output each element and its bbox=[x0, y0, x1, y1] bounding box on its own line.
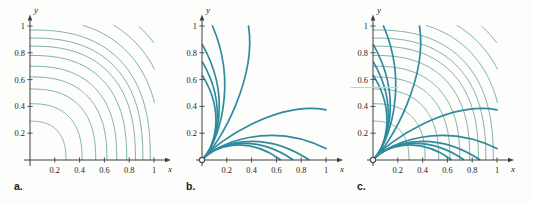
level-curve bbox=[139, 27, 154, 43]
print-artifact-line bbox=[351, 87, 398, 88]
level-curve bbox=[30, 104, 82, 160]
x-axis-letter: x bbox=[510, 164, 515, 174]
x-tick-label: 0.8 bbox=[467, 166, 477, 175]
x-tick-label: 0.2 bbox=[222, 166, 232, 175]
y-axis-arrow-icon bbox=[28, 15, 33, 21]
x-tick-label: 1 bbox=[152, 166, 156, 175]
y-tick-label: 0.8 bbox=[358, 49, 368, 58]
x-tick-label: 0.8 bbox=[296, 166, 306, 175]
level-curve bbox=[457, 26, 497, 70]
x-tick-label: 0.8 bbox=[124, 166, 134, 175]
origin-marker-icon bbox=[370, 157, 375, 162]
x-tick-label: 0.6 bbox=[271, 166, 281, 175]
level-curve bbox=[30, 66, 117, 160]
x-tick-label: 0.4 bbox=[417, 166, 428, 175]
plot-c-canvas: 0.20.20.40.40.60.60.80.811xy bbox=[343, 0, 521, 203]
y-tick-label: 0.2 bbox=[358, 129, 368, 138]
x-axis-arrow-icon bbox=[508, 158, 514, 163]
y-axis-arrow-icon bbox=[371, 15, 376, 21]
level-curve bbox=[426, 26, 497, 103]
origin-marker-icon bbox=[199, 157, 204, 162]
y-tick-label: 0.6 bbox=[358, 76, 368, 85]
plot-a-canvas: 0.20.20.40.40.60.60.80.811xy bbox=[0, 0, 178, 203]
y-axis-letter: y bbox=[205, 5, 210, 15]
y-tick-label: 1 bbox=[21, 22, 25, 31]
level-curve bbox=[482, 27, 497, 43]
y-axis-letter: y bbox=[376, 5, 381, 15]
panel-c-label: c. bbox=[357, 181, 366, 192]
y-tick-label: 0.6 bbox=[15, 76, 25, 85]
level-curve bbox=[30, 30, 150, 160]
panel-c: 0.20.20.40.40.60.60.80.811xy c. bbox=[343, 0, 521, 203]
panel-b-label: b. bbox=[186, 181, 195, 192]
panel-b: 0.20.20.40.40.60.60.80.811xy b. bbox=[172, 0, 350, 203]
y-tick-label: 0.8 bbox=[15, 49, 25, 58]
plot-b-canvas: 0.20.20.40.40.60.60.80.811xy bbox=[172, 0, 350, 203]
y-tick-label: 0.4 bbox=[358, 102, 369, 111]
y-tick-label: 0.6 bbox=[187, 76, 197, 85]
x-tick-label: 0.4 bbox=[246, 166, 257, 175]
y-tick-label: 1 bbox=[364, 22, 368, 31]
x-tick-label: 0.4 bbox=[74, 166, 85, 175]
y-axis-arrow-icon bbox=[200, 15, 205, 21]
x-axis-arrow-icon bbox=[165, 158, 171, 163]
y-tick-label: 0.2 bbox=[187, 129, 197, 138]
y-tick-label: 1 bbox=[193, 22, 197, 31]
y-axis-letter: y bbox=[33, 5, 38, 15]
x-tick-label: 1 bbox=[495, 166, 499, 175]
level-curve bbox=[30, 89, 96, 160]
level-curve bbox=[30, 56, 127, 161]
y-tick-label: 0.4 bbox=[15, 102, 26, 111]
level-curve bbox=[373, 46, 478, 160]
x-tick-label: 0.6 bbox=[99, 166, 109, 175]
y-tick-label: 0.2 bbox=[15, 129, 25, 138]
y-tick-label: 0.4 bbox=[187, 102, 198, 111]
x-tick-label: 1 bbox=[324, 166, 328, 175]
level-curve bbox=[30, 46, 135, 160]
y-tick-label: 0.8 bbox=[187, 49, 197, 58]
panel-a-label: a. bbox=[14, 181, 23, 192]
level-curve bbox=[83, 26, 154, 103]
x-tick-label: 0.2 bbox=[50, 166, 60, 175]
level-curve bbox=[114, 26, 154, 70]
x-tick-label: 0.6 bbox=[442, 166, 452, 175]
figure-three-panel-plots: 0.20.20.40.40.60.60.80.811xy a. 0.20.20.… bbox=[0, 0, 533, 203]
level-curve bbox=[30, 121, 66, 160]
x-tick-label: 0.2 bbox=[393, 166, 403, 175]
panel-a: 0.20.20.40.40.60.60.80.811xy a. bbox=[0, 0, 178, 203]
